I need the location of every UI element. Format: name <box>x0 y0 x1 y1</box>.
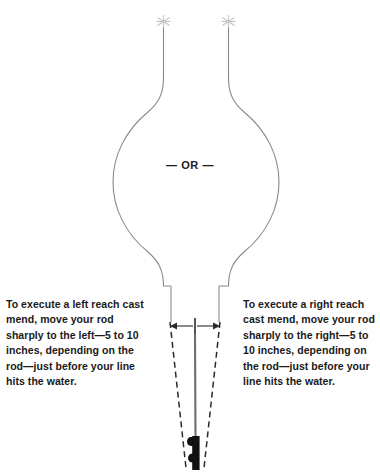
reel-icon <box>188 453 197 462</box>
or-divider-label: — OR — <box>0 158 380 172</box>
right-reach-cast-caption: To execute a right reach cast mend, move… <box>243 297 379 389</box>
fishing-rod-shaft <box>195 334 196 438</box>
asterisk-target-marker-right <box>222 15 236 28</box>
left-reach-cast-caption: To execute a left reach cast mend, move … <box>6 297 150 389</box>
measurement-arrow-group <box>170 318 220 334</box>
loop-right-curve <box>219 78 279 286</box>
loop-left-curve <box>113 78 171 286</box>
reach-cast-diagram <box>0 0 380 472</box>
rod-handle <box>187 436 200 470</box>
dashed-guide-right <box>204 322 220 468</box>
dashed-guide-left <box>170 322 186 468</box>
asterisk-target-marker-left <box>157 15 171 28</box>
reach-cast-figure: — OR — To execute a left reach cast mend… <box>0 0 380 472</box>
